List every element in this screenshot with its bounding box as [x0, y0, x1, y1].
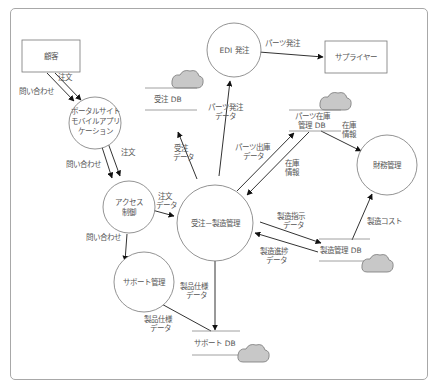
process-label: ポータルサイト [71, 107, 120, 116]
process-label: 受注－製造管理 [191, 218, 241, 228]
process-label: EDI 発注 [219, 45, 249, 55]
flow-label: 製造指示 [277, 211, 306, 221]
flow-label: データ [186, 290, 207, 300]
store-label: 受注 DB [154, 94, 181, 104]
store-label: 管理 DB [298, 120, 325, 130]
flow-label: 問い合わせ [19, 86, 54, 96]
process-access-control[interactable]: アクセス 制御 [103, 181, 155, 233]
process-support[interactable]: サポート管理 [114, 252, 174, 312]
flow-label: 情報 [342, 129, 357, 139]
process-label: サポート管理 [123, 277, 166, 287]
flow-label: データ [243, 151, 264, 161]
flow-edi-supplier [259, 52, 323, 57]
flow-label: 注文 [121, 147, 136, 157]
flow-label: 受注 [174, 143, 189, 153]
process-label: 財務管理 [373, 160, 402, 170]
flow-label: データ [266, 255, 287, 265]
flow-label: 問い合わせ [66, 159, 101, 169]
cloud-icon [362, 255, 393, 273]
flow-label: データ [156, 200, 177, 210]
flow-label: データ [173, 152, 194, 162]
external-supplier[interactable]: サプライヤー [325, 41, 387, 73]
flow-label: 製造コスト [367, 216, 402, 226]
process-label: モバイルアプリ [71, 117, 120, 126]
flow-label: 注文 [58, 72, 73, 82]
cloud-icon [238, 345, 269, 363]
flow-partsdb-ordermfg [247, 132, 309, 195]
flow-label: パーツ発注 [208, 102, 244, 112]
flow-label: 在庫 [342, 120, 357, 130]
flow-label: 製品仕様 [144, 314, 173, 324]
flow-label: 問い合わせ [86, 232, 121, 242]
flow-access-support [125, 234, 127, 261]
store-label: サポート DB [194, 339, 235, 348]
cloud-icon [320, 93, 351, 111]
flow-label: 在庫 [285, 158, 300, 168]
flow-ordermfg-edi [219, 81, 230, 176]
flow-label: 注文 [158, 191, 173, 201]
store-support-db[interactable]: サポート DB [192, 331, 269, 362]
flow-label: 製造進捗 [260, 246, 289, 256]
flow-access-ordermfg [152, 210, 174, 216]
store-manufacturing-db[interactable]: 製造管理 DB [319, 239, 393, 272]
external-label: サプライヤー [335, 53, 377, 62]
store-label: パーツ在庫 [295, 111, 331, 121]
flow-label: データ [150, 323, 171, 333]
data-flow-diagram: 注文 問い合わせ 注文 問い合わせ 注文 データ 問い合わせ 受注 データ パー… [0, 0, 437, 386]
flow-label: パーツ出庫 [235, 142, 271, 152]
flow-label: データ [215, 111, 236, 121]
flow-label: パーツ発注 [265, 38, 301, 48]
process-portal[interactable]: ポータルサイト モバイルアプリ ケーション [69, 97, 121, 149]
flow-label: データ [283, 220, 304, 230]
process-order-manufacturing[interactable]: 受注－製造管理 [177, 185, 253, 261]
process-finance[interactable]: 財務管理 [357, 135, 417, 195]
store-order-db[interactable]: 受注 DB [145, 71, 203, 111]
process-label: 制御 [122, 207, 137, 217]
process-label: ケーション [78, 127, 113, 136]
external-customer[interactable]: 顧客 [22, 40, 80, 72]
external-label: 顧客 [44, 51, 59, 61]
process-edi-order[interactable]: EDI 発注 [207, 23, 261, 77]
cloud-icon [172, 71, 203, 89]
flow-label: 情報 [285, 167, 300, 177]
flow-label: 製品仕様 [180, 281, 209, 291]
process-label: アクセス [115, 198, 143, 207]
store-label: 製造管理 DB [320, 245, 361, 255]
